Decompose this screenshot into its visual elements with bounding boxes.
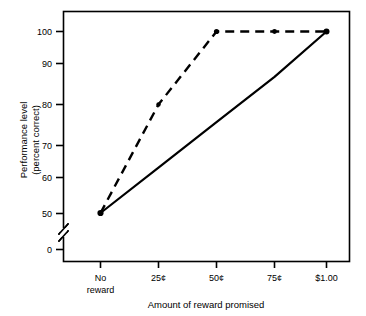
x-tick-label-75c: 75¢ [267, 273, 282, 283]
x-tick-label-reward: reward [87, 285, 115, 295]
y-axis-title: Performance level (percent correct) [18, 102, 41, 179]
dashed-point-50c [214, 29, 219, 34]
y-axis-ticks [56, 32, 64, 250]
performance-reward-line-chart: 100 90 80 70 60 50 0 No reward 25¢ 50¢ 7… [0, 0, 366, 316]
y-axis-title-line2: (percent correct) [30, 105, 41, 175]
x-axis-ticks [101, 262, 327, 269]
y-tick-label-80: 80 [42, 100, 52, 110]
x-tick-label-50c: 50¢ [209, 273, 224, 283]
chart-figure: 100 90 80 70 60 50 0 No reward 25¢ 50¢ 7… [0, 0, 366, 316]
endpoint-1dollar [324, 29, 330, 35]
x-axis-title: Amount of reward promised [148, 299, 265, 310]
y-tick-label-100: 100 [37, 27, 52, 37]
y-axis-title-line1: Performance level [18, 102, 29, 179]
y-tick-label-70: 70 [42, 141, 52, 151]
origin-point-no-reward [97, 210, 103, 216]
dashed-point-75c [272, 29, 277, 34]
y-tick-label-50: 50 [42, 209, 52, 219]
y-tick-label-0: 0 [47, 245, 52, 255]
y-tick-label-90: 90 [42, 59, 52, 69]
dashed-point-25c [156, 102, 160, 106]
y-tick-label-60: 60 [42, 173, 52, 183]
x-tick-label-25c: 25¢ [151, 273, 166, 283]
x-tick-label-1dollar: $1.00 [315, 273, 338, 283]
x-tick-label-no: No [95, 273, 107, 283]
x-axis-tick-labels: No reward 25¢ 50¢ 75¢ $1.00 [87, 273, 338, 295]
